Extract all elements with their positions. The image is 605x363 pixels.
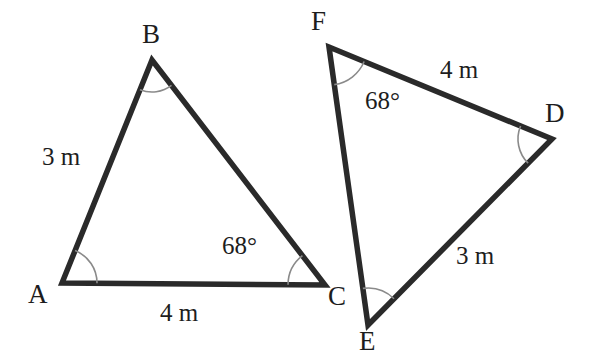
vertex-label-d: D <box>545 100 565 127</box>
angle-arc-a <box>75 251 97 284</box>
triangle-abc-group <box>62 60 325 285</box>
angle-arc-f <box>334 61 364 84</box>
vertex-label-e: E <box>359 328 376 355</box>
angle-arc-d <box>518 126 528 163</box>
side-length-label-ac: 4 m <box>160 300 198 325</box>
side-length-label-fd: 4 m <box>440 57 478 82</box>
triangle-def-outline <box>329 47 552 325</box>
triangle-abc-outline <box>62 60 325 285</box>
geometry-figure-canvas: A B C 3 m 4 m 68° F D E 4 m 3 m 68° <box>0 0 605 363</box>
vertex-label-a: A <box>28 281 48 308</box>
side-length-label-ab: 3 m <box>42 144 80 169</box>
vertex-label-b: B <box>142 21 160 48</box>
vertex-label-c: C <box>328 283 346 310</box>
angle-arc-c <box>288 256 302 285</box>
side-length-label-ed: 3 m <box>456 243 494 268</box>
triangles-svg <box>0 0 605 363</box>
triangle-def-group <box>329 47 552 325</box>
angle-measure-label-c: 68° <box>222 233 257 258</box>
vertex-label-f: F <box>311 8 326 35</box>
angle-arc-b <box>140 85 171 92</box>
angle-measure-label-f: 68° <box>365 88 400 113</box>
angle-arc-e <box>363 288 394 299</box>
